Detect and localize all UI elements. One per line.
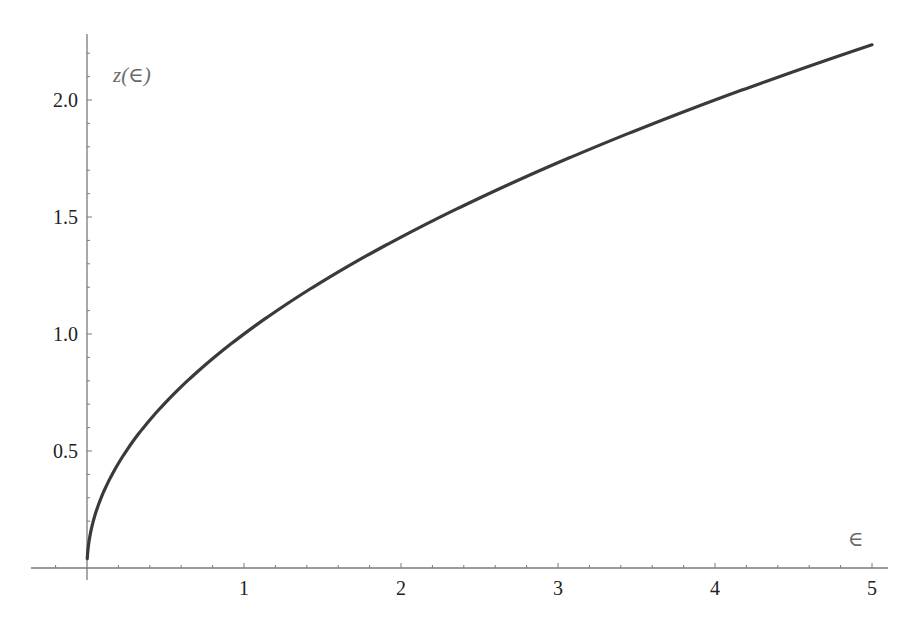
y-axis-label: z(∈) — [112, 63, 151, 87]
x-axis-label: ∈ — [848, 527, 864, 551]
x-axis: 12345 — [31, 563, 888, 599]
y-axis: 0.51.01.52.0 — [53, 34, 92, 580]
x-tick-label: 5 — [867, 577, 877, 599]
x-tick-label: 3 — [553, 577, 563, 599]
x-tick-label: 2 — [396, 577, 406, 599]
x-tick-label: 4 — [710, 577, 720, 599]
y-tick-label: 2.0 — [53, 89, 78, 111]
data-curve — [87, 45, 872, 559]
y-tick-label: 0.5 — [53, 440, 78, 462]
x-tick-label: 1 — [239, 577, 249, 599]
y-tick-label: 1.0 — [53, 323, 78, 345]
y-tick-label: 1.5 — [53, 206, 78, 228]
chart: 12345 0.51.01.52.0 z(∈) ∈ — [0, 0, 920, 624]
